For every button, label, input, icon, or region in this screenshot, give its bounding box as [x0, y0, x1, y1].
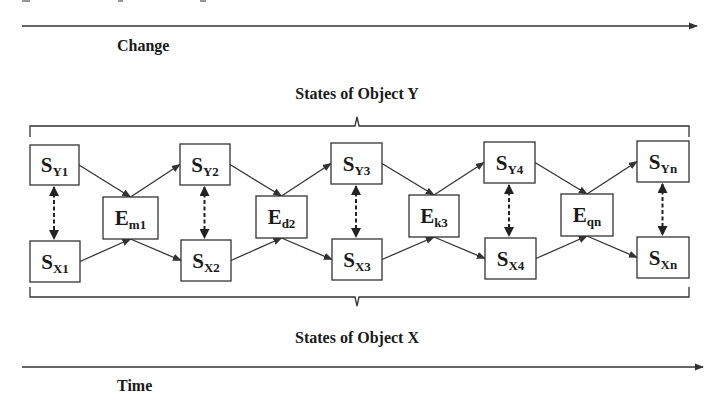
event-node-ek3: Ek3	[409, 195, 459, 237]
arrow-Ek3-to-SY4	[434, 163, 484, 196]
arrow-SY3-to-Ek3	[382, 164, 434, 196]
arrow-Em1-to-SY2	[131, 165, 181, 198]
state-y-node-sy3: SY3	[331, 143, 382, 184]
arrow-SY1-to-Em1	[79, 165, 131, 197]
state-x-node-sx1: SX1	[30, 241, 80, 282]
clipped-text-fragment	[22, 0, 206, 2]
state-y-node-sy1: SY1	[30, 145, 79, 185]
arrow-Ed2-to-SY3	[282, 164, 332, 197]
state-and-event-nodes: SY1SY2SY3SY4SYnSX1SX2SX3SX4SXnEm1Ed2Ek3E…	[30, 141, 689, 282]
object-x-bracket	[30, 287, 689, 306]
arrow-SX2-to-Ed2	[231, 238, 282, 261]
arrow-SY4-to-Eqn	[535, 163, 587, 195]
object-y-group-label: States of Object Y	[295, 85, 419, 103]
state-x-node-sx3: SX3	[332, 239, 382, 280]
state-change-diagram: Change States of Object Y SY1SY2SY3SY4SY…	[0, 0, 720, 416]
arrow-Ek3-to-SX4	[434, 237, 485, 259]
time-axis: Time	[22, 367, 703, 394]
change-axis-label: Change	[117, 37, 169, 55]
event-node-em1: Em1	[103, 197, 158, 239]
state-y-node-sy4: SY4	[484, 142, 535, 183]
arrow-Eqn-to-SYn	[587, 162, 637, 195]
arrow-SY2-to-Ed2	[230, 165, 282, 197]
change-axis: Change	[22, 26, 697, 55]
arrow-SX3-to-Ek3	[382, 237, 434, 260]
arrow-Eqn-to-SXn	[587, 236, 637, 258]
object-x-group-label: States of Object X	[295, 329, 419, 347]
state-y-node-sy2: SY2	[180, 144, 230, 185]
state-x-node-sx2: SX2	[181, 240, 231, 281]
arrow-SX1-to-Em1	[80, 239, 131, 262]
time-axis-label: Time	[117, 377, 152, 394]
state-x-node-sx4: SX4	[485, 238, 536, 279]
event-node-eqn: Eqn	[561, 194, 613, 236]
arrow-Em1-to-SX2	[131, 239, 182, 261]
state-x-node-sxn: SXn	[637, 237, 689, 278]
object-y-bracket	[30, 117, 689, 137]
arrow-SX4-to-Eqn	[536, 236, 587, 259]
event-node-ed2: Ed2	[256, 196, 307, 238]
state-y-node-syn: SYn	[637, 141, 689, 182]
arrow-Ed2-to-SX3	[282, 238, 333, 260]
